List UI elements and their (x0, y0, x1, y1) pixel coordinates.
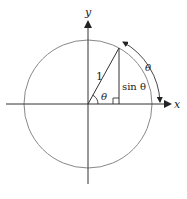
y-axis-label: y (84, 6, 92, 19)
right-angle-marker (113, 98, 119, 104)
x-axis-label: x (174, 98, 181, 111)
arc-length-arrow (123, 42, 160, 102)
arc-angle-label: θ (145, 62, 151, 73)
sine-label: sin θ (122, 81, 146, 92)
angle-arc (93, 95, 98, 104)
unit-circle-diagram: y x 1 θ sin θ θ (0, 0, 187, 199)
angle-label: θ (101, 91, 107, 102)
radius-label: 1 (96, 70, 103, 83)
